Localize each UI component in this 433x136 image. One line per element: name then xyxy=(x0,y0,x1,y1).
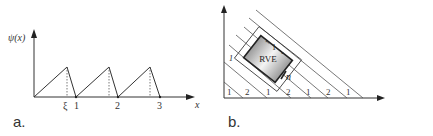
period-label: 1 xyxy=(272,43,276,52)
sawtooth-curve xyxy=(34,67,160,97)
layer-label: 2 xyxy=(326,87,331,97)
panel-a-plot xyxy=(31,29,195,100)
layer-label: 1 xyxy=(306,87,311,97)
tick-mark xyxy=(117,96,119,98)
psi-axis-label: ψ(x) xyxy=(8,32,25,43)
layer-label: 1 xyxy=(227,87,232,97)
layer-label: 2 xyxy=(245,87,250,97)
y-axis-arrow-icon xyxy=(31,29,37,38)
y-axis-arrow-icon xyxy=(221,5,227,13)
side-label: 1 xyxy=(229,54,233,63)
tick-label-2: 2 xyxy=(115,100,120,111)
layer-label: 1 xyxy=(346,87,351,97)
tick-label-3: 3 xyxy=(157,100,162,111)
x-axis-label: x xyxy=(195,99,199,110)
panel-b-label: b. xyxy=(228,113,241,130)
x-axis-arrow-icon xyxy=(377,95,385,101)
rve-label: RVE xyxy=(259,54,277,64)
tick-label-1: 1 xyxy=(74,100,79,111)
tick-label-xi: ξ xyxy=(63,100,67,111)
period-arrow-icon: ↖ xyxy=(265,39,270,45)
layer-label: 2 xyxy=(286,87,291,97)
figure-canvas: RVE n 1 ↖ ↘ 1 xyxy=(0,0,433,136)
period-arrow-icon: ↘ xyxy=(279,49,284,55)
panel-a-label: a. xyxy=(13,113,26,130)
x-axis-arrow-icon xyxy=(186,94,195,100)
tick-mark xyxy=(75,96,77,98)
tick-mark xyxy=(159,96,161,98)
layer-label: 1 xyxy=(266,87,271,97)
normal-label: n xyxy=(286,71,291,82)
